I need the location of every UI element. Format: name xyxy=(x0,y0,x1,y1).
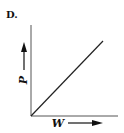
graph: P W xyxy=(0,0,124,133)
x-axis-label: W xyxy=(52,117,103,130)
data-line xyxy=(31,41,103,116)
y-axis-label: P xyxy=(17,42,30,85)
x-axis-letter: W xyxy=(52,117,66,130)
right-arrow-icon xyxy=(92,120,103,126)
up-arrow-icon xyxy=(21,42,27,52)
y-axis-letter: P xyxy=(17,75,30,85)
